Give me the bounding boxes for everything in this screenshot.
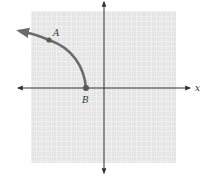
point-a bbox=[46, 37, 51, 42]
point-a-label: A bbox=[52, 28, 60, 38]
point-b-label: B bbox=[81, 95, 89, 105]
coordinate-graph: x A B bbox=[0, 0, 206, 185]
point-b bbox=[83, 85, 89, 91]
x-axis-label: x bbox=[195, 83, 200, 93]
